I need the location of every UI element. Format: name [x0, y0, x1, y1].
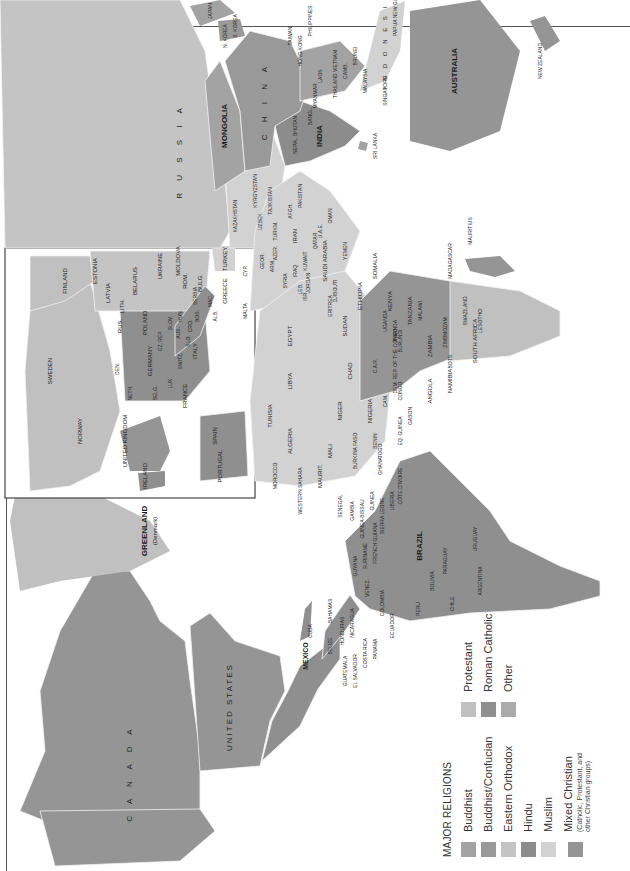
label-vietnam: VIETNAM: [333, 50, 338, 72]
label-costa-rica: COSTA RICA: [363, 638, 368, 668]
label-slo: SLO.: [186, 335, 191, 346]
label-china: C H I N A: [261, 62, 269, 140]
legend-sublabel-line2: other Christian groups): [584, 753, 592, 832]
label-jordan: JORDAN: [306, 273, 311, 294]
label-el-salvador: EL SALVADOR: [353, 654, 358, 688]
label-venezuela: VENEZ.: [365, 579, 370, 597]
label-united-states: UNITED STATES: [226, 663, 234, 751]
legend-label: Hindu: [522, 803, 534, 832]
label-thailand: THAILAND: [333, 74, 338, 99]
legend-item-roman-catholic: Roman Catholic: [480, 614, 496, 717]
label-zimbabwe: ZIMB.: [443, 334, 448, 347]
label-united-kingdom: UNITED KINGDOM: [122, 415, 128, 468]
label-geor: GEOR.: [260, 253, 265, 269]
iberia-shape: [200, 411, 248, 481]
label-brazil: BRAZIL: [416, 531, 424, 560]
label-spain: SPAIN: [212, 427, 218, 445]
legend-label: Protestant: [462, 642, 474, 692]
label-sierra-leone: SIERRA LEONE: [380, 498, 385, 535]
label-arm: ARM.: [270, 260, 275, 273]
label-myanmar: MYANMAR: [313, 83, 318, 108]
label-burkina-faso: BURKINA FASO: [353, 433, 358, 470]
label-belg: BELG.: [153, 386, 158, 401]
label-aus: AUS.: [176, 327, 181, 339]
label-russia: R U S S I A: [176, 103, 184, 198]
legend-column-2: Protestant Roman Catholic Other: [440, 521, 620, 721]
label-french-guiana: FRENCH GUIANA: [373, 522, 378, 563]
label-benin: BENIN: [373, 433, 378, 448]
label-honduras: HONDURAS: [340, 617, 345, 646]
australia-shape: [410, 0, 520, 151]
label-mozambique: MOZAM.: [443, 316, 448, 336]
swatch-eastern-orthodox: [501, 842, 516, 857]
label-ghana: GHANA: [378, 457, 383, 475]
label-congo: CONGO: [398, 382, 403, 401]
legend-label: Muslim: [542, 797, 554, 832]
legend-label: Eastern Orthodox: [502, 746, 514, 832]
label-belize: BELIZE: [328, 637, 333, 654]
label-iraq: IRAQ: [293, 265, 298, 277]
label-italy: ITALY: [192, 343, 198, 359]
label-libya: LIBYA: [287, 373, 293, 390]
label-algeria: ALGERIA: [287, 428, 293, 454]
label-suriname: SURINAME: [363, 543, 368, 569]
label-madagascar: MADAGASCAR: [448, 243, 453, 279]
label-rom: ROM.: [182, 273, 188, 289]
label-sri-lanka: SRI LANKA: [373, 133, 378, 159]
label-malawi: MALAWI: [418, 301, 423, 321]
legend-label: Buddhist/Confucian: [482, 737, 494, 832]
legend-item-buddhist-confucian: Buddhist/Confucian: [480, 737, 496, 857]
madagascar-shape: [465, 256, 515, 277]
label-liberia: LIBERIA: [390, 491, 395, 510]
label-cote-divoire: CÔTE D'IVOIRE: [398, 468, 403, 505]
label-serbia: SERBIA: [193, 287, 198, 305]
label-tanzania: TANZANIA: [407, 296, 413, 325]
label-mac: MAC.: [208, 295, 213, 308]
legend-label: Buddhist: [462, 789, 474, 832]
label-bulg: BULG.: [197, 274, 203, 292]
label-n-korea: N. KOREA: [223, 24, 228, 48]
label-den: DEN.: [115, 363, 120, 375]
label-gabon: GABON: [408, 407, 413, 425]
label-guinea: GUINEA: [370, 491, 375, 510]
label-nicaragua: NICARAGUA: [350, 608, 355, 638]
sri-lanka-shape: [358, 141, 368, 151]
legend-label: Roman Catholic: [482, 614, 494, 692]
label-kazakhstan: KAZAKHSTAN: [233, 200, 238, 233]
label-sweden: SWEDEN: [47, 358, 53, 384]
label-senegal: SENEGAL: [338, 494, 343, 518]
label-finland: FINLAND: [62, 268, 68, 294]
label-slov: SLOV.: [168, 316, 173, 330]
label-mali: MALI: [327, 444, 333, 458]
label-djibouti: DJIBOUTI: [333, 280, 338, 303]
label-indonesia: I N D O N E S I A: [382, 0, 388, 90]
label-guinea-bissau: GUINEA-BISSAU: [360, 499, 365, 538]
swatch-mixed-christian: [568, 842, 583, 857]
label-mauritania: MAURIT.: [317, 464, 323, 488]
label-guyana: GUYANA: [353, 556, 358, 577]
label-somalia: SOMALIA: [372, 253, 378, 280]
label-western-sahara: WESTERN SAHARA: [298, 468, 303, 515]
label-japan: JAPAN: [208, 3, 213, 19]
label-panama: PANAMA: [373, 639, 378, 660]
label-taiwan: TAIWAN: [288, 27, 293, 46]
swatch-muslim: [541, 842, 556, 857]
swatch-hindu: [521, 842, 536, 857]
label-kyrgyzstan: KYRGYZSTAN: [253, 174, 258, 208]
label-tunisia: TUNISIA: [267, 404, 273, 428]
label-greenland: GREENLAND: [141, 506, 149, 557]
label-eq-guinea: EQ. GUINEA: [398, 416, 403, 445]
label-cameroon: CAM.: [383, 395, 388, 408]
label-pakistan: PAKISTAN: [298, 184, 303, 208]
label-norway: NORWAY: [77, 418, 83, 444]
label-lux: LUX.: [168, 377, 173, 388]
legend-item-buddhist: Buddhist: [460, 789, 476, 857]
label-zambia: ZAMBIA: [427, 335, 433, 357]
label-s-korea: S. KOREA: [233, 14, 238, 38]
label-bangl: BANGL.: [308, 107, 313, 125]
label-iran: IRAN: [292, 229, 298, 243]
label-portugal: PORTUGAL: [217, 450, 223, 483]
label-syria: SYRIA: [283, 273, 288, 288]
label-uae: U.A.E.: [318, 224, 323, 238]
label-laos: LAOS: [318, 69, 323, 82]
